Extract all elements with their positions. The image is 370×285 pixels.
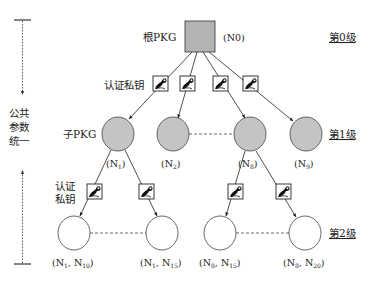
auth-key-icon [243,76,258,91]
auth-key-icon [213,76,228,91]
level2-node-n1-n15 [146,216,178,250]
side-label-line3: 统一 [9,135,30,147]
level2-id-n1-n15: (N1, N15) [140,257,182,269]
child-pkg-label: 子PKG [63,128,96,140]
root-pkg-id: (N0) [223,32,245,43]
auth-key-label-bottom-line2: 私钥 [55,193,75,205]
level1-id-labels: (N1) (N2) (N8) (N9) [106,158,314,170]
auth-key-label-top: 认证私钥 [104,79,144,91]
level-1-label: 第1级 [329,128,357,140]
auth-key-icon [139,184,154,199]
level2-id-n8-n15: (N8, N15) [199,257,241,269]
level-2-label: 第2级 [329,227,357,239]
auth-key-icon [180,76,195,91]
level1-id-n9: (N9) [294,158,314,170]
level1-id-n1: (N1) [106,158,126,170]
auth-key-icon [228,184,243,199]
common-params-indicator: 公共 参数 统一 [9,20,31,264]
level2-node-n8-n15 [204,216,236,250]
auth-key-icon [276,184,291,199]
level2-node-n8-n20 [289,216,321,250]
level1-node-n8 [234,117,266,151]
side-label-line2: 参数 [9,121,30,133]
level2-id-n8-n20: (N8, N20) [283,257,325,269]
root-pkg-square [185,21,215,52]
auth-key-icon [87,184,102,199]
level-0-label: 第0级 [329,31,357,43]
side-label-line1: 公共 [9,107,30,119]
auth-key-icon [153,76,168,91]
level2-node-n1-n10 [58,216,90,250]
root-pkg-node: 根PKG (N0) [143,21,245,52]
level1-id-n2: (N2) [161,158,181,170]
pkg-hierarchy-diagram: 公共 参数 统一 根PKG (N0) 第0级 认证私钥 子PKG 第1级 (N1… [0,0,370,285]
auth-key-label-bottom-line1: 认证 [55,180,76,192]
level2-id-n1-n10: (N1, N10) [52,257,94,269]
level1-node-n1 [102,117,134,151]
level1-node-n2 [157,117,189,151]
level1-node-n9 [290,117,322,151]
root-pkg-label: 根PKG [143,31,176,43]
